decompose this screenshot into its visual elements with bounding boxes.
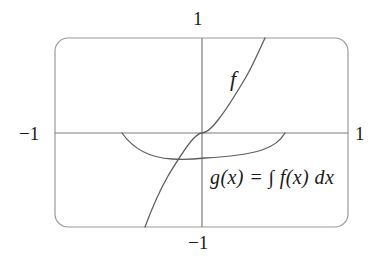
tick-label-left: −1: [19, 124, 39, 143]
curve-g: [122, 133, 285, 159]
plot-canvas: [0, 0, 382, 267]
tick-label-bottom: −1: [188, 233, 208, 252]
curve-label-f: f: [230, 68, 236, 90]
curve-label-g-equation: g(x) = ∫ f(x) dx: [210, 167, 334, 187]
tick-label-top: 1: [193, 9, 203, 28]
antiderivative-figure: 1 −1 1 −1 f g(x) = ∫ f(x) dx: [0, 0, 382, 267]
tick-label-right: 1: [355, 124, 365, 143]
